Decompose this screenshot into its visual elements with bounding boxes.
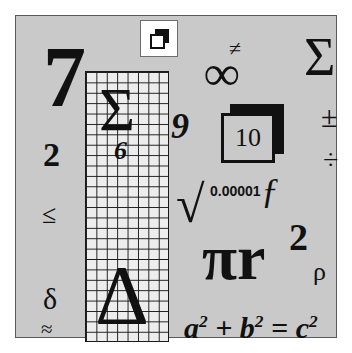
- delta-triangle-icon: Δ: [95, 254, 149, 338]
- pyth-equals: =: [271, 311, 288, 344]
- boxed-value-label: 10: [224, 116, 272, 160]
- plus-minus-icon: ±: [321, 102, 337, 132]
- function-f-icon: ƒ: [261, 173, 279, 209]
- digit-nine: 9: [171, 108, 189, 144]
- infinity-icon: ∞: [204, 48, 240, 98]
- pyth-a: a: [184, 311, 199, 344]
- square-root-icon: √: [176, 179, 205, 231]
- pi-r-exponent: 2: [289, 218, 308, 256]
- sigma-summation-large-icon: Σ: [304, 30, 335, 84]
- pi-r-formula: πr: [202, 226, 265, 290]
- digit-two: 2: [43, 138, 60, 172]
- pyth-b-exp: 2: [255, 311, 264, 331]
- pyth-c: c: [296, 311, 309, 344]
- small-decimal-value: 0.00001: [210, 184, 261, 198]
- boxed-value: 10: [221, 113, 275, 163]
- digit-six: 6: [114, 138, 127, 164]
- divide-icon: ÷: [323, 146, 338, 174]
- approximately-equal-icon: ≈: [41, 319, 53, 340]
- delta-lowercase-icon: δ: [43, 284, 57, 314]
- pyth-plus: +: [215, 311, 232, 344]
- sigma-summation-icon: Σ: [99, 78, 135, 140]
- pyth-c-exp: 2: [309, 311, 318, 331]
- copy-icon-front-square: [150, 34, 165, 49]
- digit-seven: 7: [43, 34, 86, 120]
- copy-overlap-icon[interactable]: [140, 20, 178, 57]
- pyth-b: b: [240, 311, 255, 344]
- rho-icon: ρ: [313, 259, 326, 285]
- pythagorean-theorem: a2 + b2 = c2: [184, 313, 318, 343]
- gray-panel: 7 2 ≤ δ ≈ Σ 6 Δ 9 ≠ ∞ Σ ± ÷ 10 √ 0.00001…: [15, 15, 337, 338]
- less-than-or-equal-icon: ≤: [42, 202, 56, 228]
- pyth-a-exp: 2: [199, 311, 208, 331]
- math-symbols-collage: 7 2 ≤ δ ≈ Σ 6 Δ 9 ≠ ∞ Σ ± ÷ 10 √ 0.00001…: [0, 0, 352, 353]
